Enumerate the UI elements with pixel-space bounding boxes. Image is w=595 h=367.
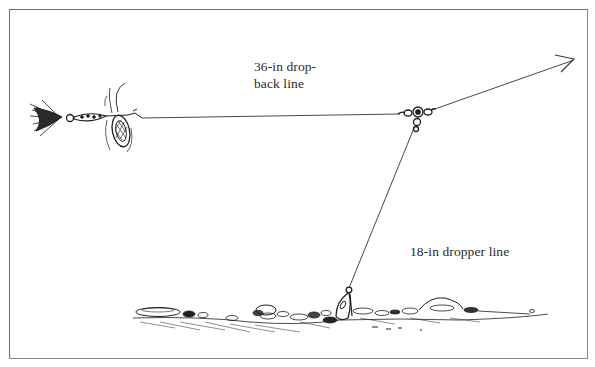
dropback-label-line2: back line (254, 75, 334, 92)
dropper-line (349, 128, 414, 288)
dropper-line-label: 18-in dropper line (410, 243, 509, 260)
dropback-line (142, 114, 400, 118)
dropback-label-line1: 36-in drop- (254, 58, 334, 75)
sinker-icon (336, 287, 352, 319)
three-way-swivel-icon (398, 107, 436, 132)
rig-diagram (0, 0, 595, 367)
main-line (432, 60, 574, 110)
dropback-line-label: 36-in drop- back line (254, 58, 334, 92)
spinner-lure-icon (30, 83, 142, 152)
